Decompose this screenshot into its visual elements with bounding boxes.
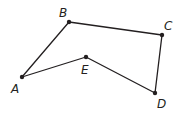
edge-de bbox=[86, 57, 155, 93]
vertex-labels: ABCDE bbox=[10, 6, 173, 111]
edge-cd bbox=[155, 35, 162, 93]
vertex-label-b: B bbox=[59, 6, 67, 20]
vertex-point-d bbox=[153, 91, 157, 95]
edge-ea bbox=[22, 57, 86, 77]
polygon-vertices bbox=[20, 20, 164, 95]
vertex-point-c bbox=[160, 33, 164, 37]
vertex-label-c: C bbox=[164, 19, 173, 33]
vertex-label-d: D bbox=[157, 97, 166, 111]
vertex-label-a: A bbox=[10, 82, 19, 96]
polygon-edges bbox=[22, 22, 162, 93]
pentagon-diagram: ABCDE bbox=[0, 0, 180, 115]
vertex-point-b bbox=[67, 20, 71, 24]
edge-bc bbox=[69, 22, 162, 35]
vertex-point-a bbox=[20, 75, 24, 79]
vertex-label-e: E bbox=[81, 63, 89, 77]
vertex-point-e bbox=[84, 55, 88, 59]
edge-ab bbox=[22, 22, 69, 77]
